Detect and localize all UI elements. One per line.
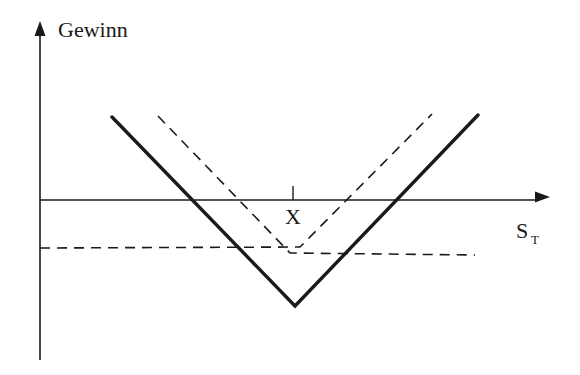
x-axis-arrow-icon — [535, 192, 550, 203]
strike-label: X — [285, 204, 301, 229]
x-axis-label: S — [516, 218, 528, 243]
payoff-diagram: Gewinn X S T — [0, 0, 580, 375]
x-axis-label-subscript: T — [531, 232, 539, 247]
y-axis-arrow-icon — [35, 21, 46, 36]
dashed-call-line — [40, 114, 432, 248]
y-axis-label: Gewinn — [58, 17, 128, 42]
dashed-put-line — [158, 116, 475, 255]
